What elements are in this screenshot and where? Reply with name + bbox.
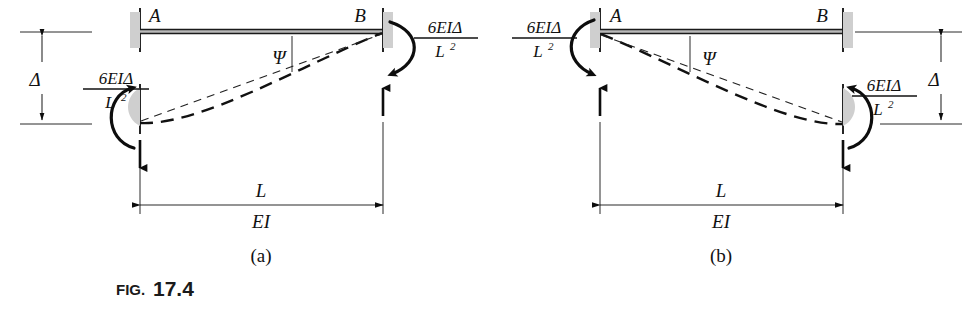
support-hatch-b-b [843, 12, 853, 48]
psi-label-b: Ψ [702, 48, 717, 69]
moment-label-left-b: 6EIΔ L 2 [512, 18, 577, 61]
moment-denominator-right-a: L [434, 42, 444, 61]
moment-denominator-exponent-left-a: 2 [121, 91, 127, 103]
support-hatch-a [130, 12, 140, 48]
support-hatch-a-b [590, 12, 600, 48]
moment-denominator-left-a: L [104, 93, 114, 112]
support-b-fixed-a [383, 8, 393, 52]
span-dimension-a: L EI [140, 122, 383, 232]
support-hatch-b-displaced [843, 88, 855, 126]
moment-arc-right-a [390, 22, 414, 74]
structural-diagram-svg: Δ A B [0, 0, 968, 312]
chord-line-a [141, 34, 382, 121]
moment-label-right-b: 6EIΔ L 2 [852, 76, 917, 119]
figure-caption: FIG. 17.4 [116, 277, 194, 300]
delta-label-a: Δ [28, 69, 40, 90]
support-hatch-a-displaced [128, 88, 140, 126]
stiffness-label-b: EI [711, 211, 732, 232]
moment-left-b: 6EIΔ L 2 [512, 18, 594, 74]
support-a-original [130, 8, 140, 52]
chord-line-b [601, 35, 842, 122]
support-a-displaced [128, 84, 140, 134]
node-label-a-left: A [147, 5, 161, 26]
moment-denominator-exponent-right-b: 2 [888, 98, 894, 110]
moment-denominator-right-b: L [872, 100, 882, 119]
support-a-fixed-b [590, 8, 600, 52]
moment-numerator-left-b: 6EIΔ [527, 18, 562, 37]
delta-dimension-a: Δ [20, 32, 92, 124]
node-label-b-left-panel: B [354, 5, 366, 26]
beam-original-a [140, 30, 383, 34]
moment-numerator-right-b: 6EIΔ [867, 76, 902, 95]
node-label-a-right-panel: A [608, 5, 622, 26]
moment-denominator-exponent-left-b: 2 [548, 40, 554, 52]
panel-sublabel-b: (b) [710, 245, 732, 267]
figure-caption-number: 17.4 [153, 277, 194, 300]
span-label-a: L [255, 180, 267, 201]
moment-numerator-right-a: 6EIΔ [428, 18, 463, 37]
figure-caption-prefix: FIG. [116, 281, 145, 298]
moment-numerator-left-a: 6EIΔ [99, 69, 134, 88]
moment-right-a: 6EIΔ L 2 [390, 18, 478, 74]
panel-b: A B Ψ [512, 5, 962, 267]
beam-original-b [600, 30, 843, 34]
support-hatch-b-a [383, 12, 393, 48]
span-label-b: L [715, 180, 727, 201]
psi-label-a: Ψ [272, 47, 287, 68]
support-b-displaced [843, 84, 855, 134]
node-label-b-right-panel: B [816, 5, 828, 26]
span-dimension-b: L EI [600, 122, 843, 232]
figure-canvas: Δ A B [0, 0, 968, 312]
moment-right-b: 6EIΔ L 2 [849, 76, 917, 148]
moment-denominator-exponent-right-a: 2 [450, 40, 456, 52]
delta-label-b: Δ [927, 69, 939, 90]
moment-label-right-a: 6EIΔ L 2 [414, 18, 478, 61]
panel-a: Δ A B [20, 5, 478, 267]
moment-denominator-left-b: L [532, 42, 542, 61]
support-b-original-b [843, 8, 853, 52]
stiffness-label-a: EI [251, 211, 272, 232]
panel-sublabel-a: (a) [250, 245, 271, 267]
